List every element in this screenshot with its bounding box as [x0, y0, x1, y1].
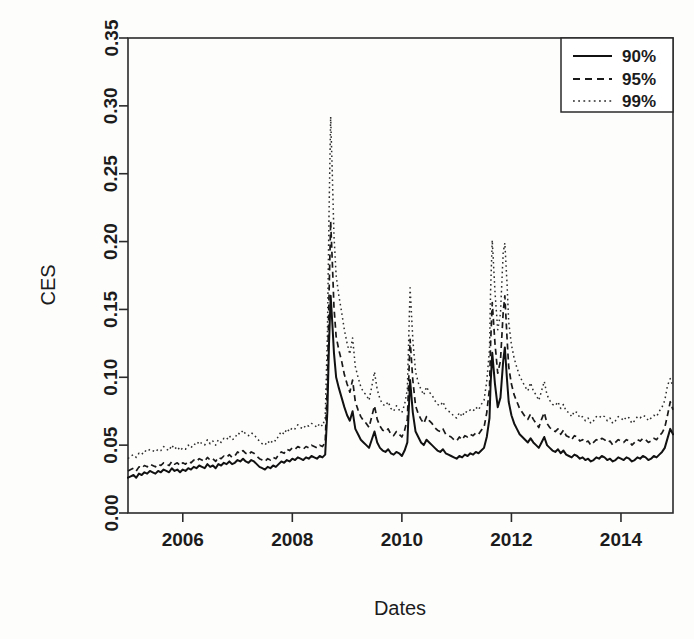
y-tick-label: 0.15 — [101, 291, 122, 328]
legend-label-95: 95% — [622, 70, 656, 89]
x-tick-label: 2006 — [162, 529, 204, 550]
ces-line-chart: 0.000.050.100.150.200.250.300.35 2006200… — [0, 0, 694, 639]
series-line-90pct — [128, 296, 673, 478]
y-axis-ticks: 0.000.050.100.150.200.250.300.35 — [101, 19, 129, 531]
y-tick-label: 0.35 — [101, 19, 122, 56]
legend-label-90: 90% — [622, 47, 656, 66]
y-axis-title: CES — [37, 264, 59, 305]
y-tick-label: 0.00 — [101, 495, 122, 532]
x-tick-label: 2008 — [271, 529, 313, 550]
y-tick-label: 0.25 — [101, 155, 122, 192]
x-axis-ticks: 20062008201020122014 — [162, 513, 643, 550]
x-tick-label: 2012 — [490, 529, 532, 550]
series-line-99pct — [128, 117, 673, 459]
chart-legend[interactable]: 90% 95% 99% — [561, 38, 673, 112]
legend-label-99: 99% — [622, 92, 656, 111]
y-tick-label: 0.05 — [101, 426, 122, 463]
y-tick-label: 0.30 — [101, 87, 122, 124]
x-axis-title: Dates — [374, 597, 426, 619]
y-tick-label: 0.10 — [101, 359, 122, 396]
legend-box — [561, 38, 673, 112]
series-line-95pct — [128, 221, 673, 471]
chart-figure: 0.000.050.100.150.200.250.300.35 2006200… — [0, 0, 694, 639]
x-tick-label: 2010 — [381, 529, 423, 550]
data-series-group — [128, 117, 673, 478]
x-tick-label: 2014 — [600, 529, 643, 550]
y-tick-label: 0.20 — [101, 223, 122, 260]
